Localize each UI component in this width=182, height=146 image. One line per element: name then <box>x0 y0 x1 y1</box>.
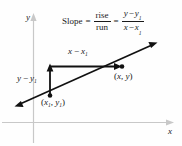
formula-num-y1-subscript: 1 <box>139 15 142 21</box>
formula-den-x1-subscript: 1 <box>139 30 142 36</box>
formula-den-minus: − <box>129 22 134 32</box>
formula-num-y: y <box>124 8 128 18</box>
run-label-x: x <box>68 46 72 56</box>
point-x1y1-close: ) <box>62 97 65 107</box>
formula-rise-over-run: rise run <box>94 11 111 32</box>
y-axis-label: y <box>26 13 30 22</box>
formula-num-minus: − <box>129 8 134 18</box>
formula-rise-label: rise <box>94 11 111 20</box>
rise-label-y: y <box>17 73 21 83</box>
formula-run-label: run <box>94 23 110 32</box>
rise-arrow-head <box>47 64 54 72</box>
point-x1y1-y-subscript: 1 <box>59 102 62 108</box>
point-xy-close: ) <box>130 71 133 81</box>
formula-numerator-expression: y−y1 <box>122 9 144 20</box>
point-label-xy: (x, y) <box>114 72 133 81</box>
rise-segment-label: y−y1 <box>17 74 37 83</box>
run-label-x1-subscript: 1 <box>85 51 88 57</box>
formula-den-x: x <box>124 22 128 32</box>
slope-formula: Slope = rise run = y−y1 x−x1 <box>62 9 144 35</box>
point-x1y1-x-subscript: 1 <box>48 102 51 108</box>
y-axis-arrowhead <box>30 13 36 21</box>
formula-denominator-expression: x−x1 <box>122 23 144 34</box>
formula-equals-1: = <box>86 17 91 26</box>
slope-line-arrowhead-end <box>148 42 157 48</box>
run-segment-label: x−x1 <box>68 47 88 56</box>
point-marker-xy <box>120 64 125 69</box>
x-axis-label: x <box>168 127 172 136</box>
formula-equals-2: = <box>114 17 119 26</box>
run-label-minus: − <box>74 46 79 56</box>
rise-label-minus: − <box>23 73 28 83</box>
slope-diagram-figure: y x Slope = rise run = y−y1 x−x1 x−x1 y−… <box>0 0 182 146</box>
formula-lhs-label: Slope <box>62 17 83 26</box>
point-label-x1y1: (x1, y1) <box>41 98 65 107</box>
x-axis-arrowhead <box>166 119 174 125</box>
rise-label-y1-subscript: 1 <box>34 78 37 84</box>
formula-delta-y-over-delta-x: y−y1 x−x1 <box>122 9 144 35</box>
slope-line-arrowhead-start <box>15 101 24 107</box>
